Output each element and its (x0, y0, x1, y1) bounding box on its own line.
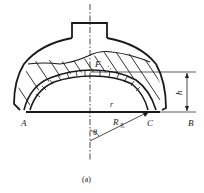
radius-line-R (90, 112, 148, 141)
inner-shell-inner-arc (30, 76, 148, 110)
label-r: r (110, 100, 114, 109)
label-theta: θ (93, 128, 97, 137)
label-R-subscript: 孔 (120, 122, 125, 129)
F-leader (108, 66, 112, 70)
hatched-section (0, 40, 184, 120)
label-R: R (112, 117, 119, 127)
h-arrow-bottom (185, 106, 189, 111)
h-arrow-top (185, 73, 189, 78)
label-C: C (147, 118, 154, 128)
dome-cross-section-diagram: A B C F h r R 孔 θ (a) (0, 0, 204, 193)
label-B: B (188, 118, 194, 128)
label-A: A (20, 118, 27, 128)
label-F: F (94, 59, 101, 69)
figure-caption: (a) (82, 175, 91, 184)
top-boss (72, 23, 107, 38)
label-h: h (174, 90, 184, 95)
